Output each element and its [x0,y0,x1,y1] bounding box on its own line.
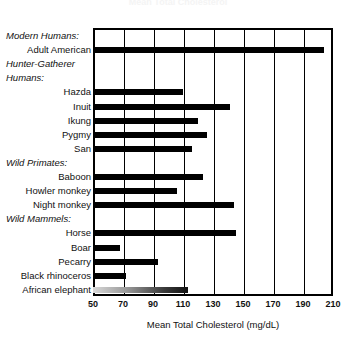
bar [93,259,158,265]
bar [93,104,230,110]
bar [93,287,188,293]
x-tick-label: 70 [118,299,128,309]
bar [93,47,324,53]
x-tick-label: 130 [205,299,220,309]
bar [93,89,183,95]
bar [93,230,236,236]
chart-bar-row: African elephant [0,282,356,298]
x-tick-label: 90 [148,299,158,309]
x-tick-label: 190 [295,299,310,309]
category-label: African elephant [0,282,91,298]
bar [93,273,126,279]
x-tick-label: 170 [265,299,280,309]
x-tick-label: 210 [325,299,340,309]
chart-title: Mean Total Cholesterol [0,0,356,6]
x-axis-label: Mean Total Cholesterol (mg/dL) [93,319,333,330]
bar [93,245,120,251]
bar [93,118,198,124]
x-axis-ticks: 507090110130150170190210 [0,299,356,313]
bar [93,174,203,180]
x-tick-label: 110 [176,299,191,309]
bar [93,146,192,152]
x-tick-label: 150 [235,299,250,309]
bar [93,132,207,138]
x-tick-label: 50 [88,299,98,309]
bar [93,188,177,194]
cholesterol-bar-chart: Mean Total Cholesterol Modern Humans:Adu… [0,0,356,349]
bar [93,202,234,208]
